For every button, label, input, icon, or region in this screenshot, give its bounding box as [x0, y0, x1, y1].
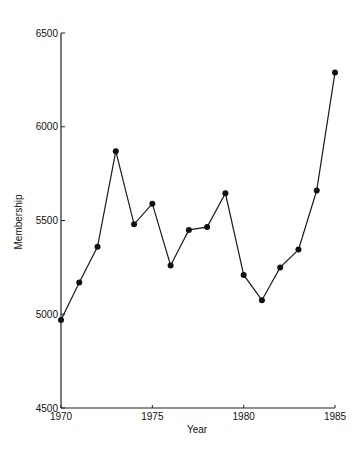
- x-axis-title: Year: [187, 424, 208, 435]
- membership-line: [61, 72, 335, 320]
- data-point: [113, 148, 119, 154]
- data-point: [95, 244, 101, 250]
- data-point: [241, 272, 247, 278]
- data-point: [131, 221, 137, 227]
- data-point: [314, 188, 320, 194]
- y-tick-label: 5000: [36, 309, 59, 320]
- x-tick-label: 1975: [141, 411, 164, 422]
- data-point: [168, 263, 174, 269]
- x-tick-label: 1980: [233, 411, 256, 422]
- line-chart: 45005000550060006500 1970197519801985 Ye…: [0, 0, 359, 454]
- data-point: [58, 317, 64, 323]
- y-tick-label: 6500: [36, 28, 59, 39]
- data-point: [277, 264, 283, 270]
- y-tick-label: 5500: [36, 215, 59, 226]
- y-axis-title: Membership: [13, 194, 24, 249]
- x-tick-label: 1985: [324, 411, 347, 422]
- data-point: [295, 247, 301, 253]
- data-point: [332, 69, 338, 75]
- data-point: [186, 227, 192, 233]
- data-point: [222, 190, 228, 196]
- y-tick-label: 6000: [36, 121, 59, 132]
- x-tick-label: 1970: [50, 411, 73, 422]
- data-point-markers: [58, 69, 338, 323]
- data-point: [259, 297, 265, 303]
- data-point: [149, 201, 155, 207]
- data-point: [204, 224, 210, 230]
- data-point: [76, 279, 82, 285]
